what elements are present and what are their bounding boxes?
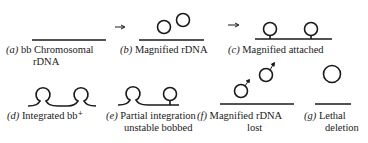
label-a: (a) bb Chromosomal bbox=[6, 44, 94, 56]
lost-circle-f1 bbox=[235, 85, 248, 98]
arrow-icon-b-to-c bbox=[228, 23, 239, 27]
arrow-icon-f2 bbox=[270, 63, 275, 71]
arrow-icon-f1 bbox=[245, 80, 250, 87]
integrated-chromosome-d bbox=[28, 88, 96, 106]
label-g-line2: deletion bbox=[325, 122, 359, 134]
label-b-line1: Magnified rDNA bbox=[135, 44, 208, 55]
attached-circle-e2 bbox=[164, 88, 177, 101]
label-b: (b) Magnified rDNA bbox=[120, 44, 207, 56]
label-e-line1: Partial integration bbox=[120, 110, 196, 121]
label-a-line2: rDNA bbox=[33, 56, 59, 68]
rdna-circle-b2 bbox=[177, 14, 190, 27]
deleted-circle-g bbox=[324, 66, 341, 83]
label-c: (c) Magnified attached bbox=[228, 44, 324, 56]
label-a-line1: bb Chromosomal bbox=[21, 44, 94, 55]
label-e-line2: unstable bobbed bbox=[124, 122, 193, 134]
label-d: (d) Integrated bb⁺ bbox=[7, 110, 83, 122]
rdna-circle-b1 bbox=[158, 21, 171, 34]
lost-circle-f2 bbox=[260, 69, 273, 82]
label-c-line1: Magnified attached bbox=[242, 44, 323, 55]
label-g-line1: Lethal bbox=[319, 110, 346, 121]
label-f: (f) Magnified rDNA bbox=[197, 110, 282, 122]
arrow-icon-a-to-b bbox=[115, 25, 125, 29]
label-f-line1: Magnified rDNA bbox=[210, 110, 283, 121]
label-d-line1: Integrated bb⁺ bbox=[22, 110, 83, 121]
attached-circle-c1 bbox=[264, 23, 277, 36]
label-f-line2: lost bbox=[247, 122, 262, 134]
attached-circle-c2 bbox=[305, 23, 318, 36]
label-e: (e) Partial integration bbox=[106, 110, 196, 122]
label-g: (g) Lethal bbox=[304, 110, 346, 122]
